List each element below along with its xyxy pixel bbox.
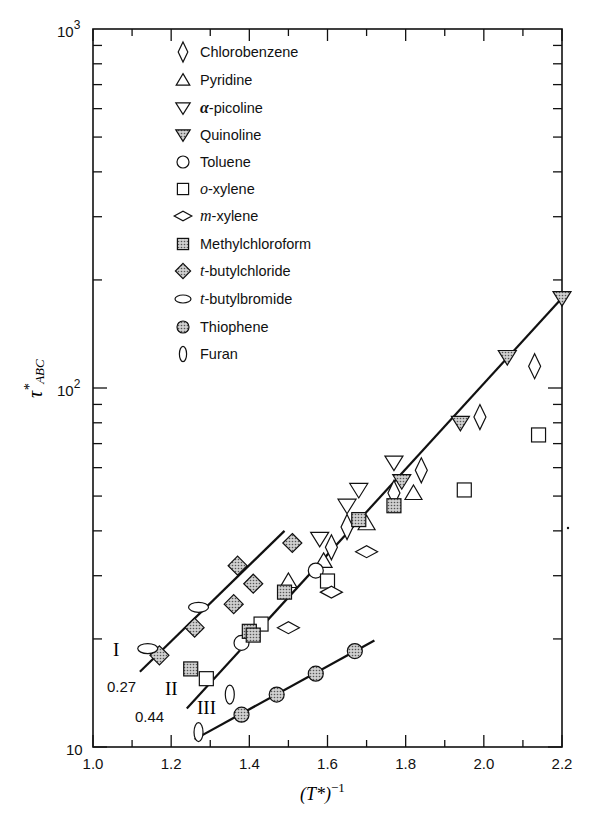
legend-item: Chlorobenzene [178, 42, 298, 62]
legend-label: o-xylene [200, 180, 255, 197]
data-point [224, 595, 243, 614]
data-point [532, 428, 546, 442]
legend-item: Quinoline [176, 127, 261, 143]
annotation-0-44: 0.44 [135, 708, 164, 725]
annotation-II: II [165, 678, 178, 699]
data-point [387, 499, 401, 513]
legend-item: t-butylbromide [175, 290, 292, 307]
data-point [451, 416, 469, 431]
data-point [283, 534, 302, 553]
annotation-III: III [197, 697, 216, 718]
legend-item: Thiophene [177, 319, 269, 335]
x-tick-label: 1.8 [395, 755, 416, 772]
stray-dot [567, 527, 569, 529]
legend: ChlorobenzenePyridineα-picolineQuinoline… [174, 42, 311, 362]
legend-label: Thiophene [200, 319, 269, 335]
data-point [278, 585, 292, 599]
data-point [189, 602, 209, 612]
x-tick-label: 1.0 [83, 755, 104, 772]
series-chlorobenzene [325, 354, 540, 560]
data-point [385, 456, 403, 471]
data-point [225, 685, 234, 704]
data-point [234, 707, 249, 722]
legend-item: m-xylene [174, 207, 258, 224]
data-point [199, 672, 213, 686]
y-axis-label: τ*ABC [22, 359, 47, 398]
data-point [415, 458, 427, 483]
legend-label: t-butylbromide [200, 290, 292, 307]
data-point [474, 405, 486, 430]
legend-label: Methylchloroform [200, 236, 311, 252]
data-point [321, 574, 335, 588]
x-tick-label: 1.6 [317, 755, 338, 772]
fit-line-III [195, 640, 375, 739]
legend-item: t-butylchloride [175, 262, 290, 279]
data-point [457, 483, 471, 497]
data-point [228, 556, 247, 575]
series-o-xylene [199, 428, 545, 686]
legend-label: m-xylene [200, 207, 258, 224]
fit-lines: I0.27II0.44III [107, 298, 562, 739]
chart: 1.01.21.41.61.82.02.2 I0.27II0.44III Chl… [0, 0, 595, 822]
legend-item: Furan [179, 346, 237, 362]
y-tick-label-100: 102 [57, 377, 81, 399]
annotation-I: I [113, 639, 119, 660]
y-tick-label-1000: 103 [57, 18, 81, 40]
data-point [347, 644, 362, 659]
legend-label: Pyridine [200, 72, 252, 88]
data-point [246, 628, 260, 642]
x-tick-label: 1.4 [239, 755, 260, 772]
x-axis-label: (T*)−1 [300, 780, 345, 805]
legend-item: o-xylene [177, 180, 254, 197]
annotation-0-27: 0.27 [107, 678, 136, 695]
series-quinoline [393, 292, 571, 490]
legend-item: Methylchloroform [177, 236, 311, 252]
legend-item: Toluene [177, 154, 251, 170]
data-point [269, 687, 284, 702]
plot-frame [93, 29, 562, 747]
data-point [529, 354, 541, 379]
data-point [338, 499, 356, 514]
data-point [184, 662, 198, 676]
x-tick-label: 1.2 [161, 755, 182, 772]
legend-label: Furan [200, 346, 238, 362]
legend-label: t-butylchloride [200, 262, 291, 279]
legend-item: α-picoline [176, 99, 263, 116]
x-tick-label: 2.2 [552, 755, 573, 772]
legend-label: Quinoline [200, 127, 261, 143]
data-point [356, 546, 378, 558]
data-point [244, 574, 263, 593]
data-point [311, 532, 329, 547]
legend-label: α-picoline [200, 99, 263, 116]
svg-text:τ*ABC: τ*ABC [22, 359, 47, 398]
data-point [277, 622, 299, 634]
data-point [498, 350, 516, 365]
y-tick-label-10: 10 [66, 741, 83, 758]
legend-label: Toluene [200, 154, 251, 170]
data-point [405, 485, 422, 500]
data-point [308, 666, 323, 681]
data-point [138, 644, 158, 654]
data-point [194, 723, 203, 742]
x-tick-label: 2.0 [473, 755, 494, 772]
data-point [185, 618, 204, 637]
data-point [352, 513, 366, 527]
data-point [350, 483, 368, 498]
legend-item: Pyridine [176, 72, 252, 88]
legend-label: Chlorobenzene [200, 44, 298, 60]
plot-border [93, 29, 562, 747]
